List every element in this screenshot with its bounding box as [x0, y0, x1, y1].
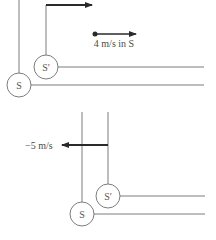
bottom-panel: S S′ −5 m/s: [25, 112, 205, 226]
top-panel: S S′ 4 m/s in S: [7, 0, 204, 97]
top-sprime-label: S′: [42, 62, 50, 73]
bottom-velocity-label: −5 m/s: [25, 140, 53, 151]
relative-velocity-diagram: S S′ 4 m/s in S S S′ −5 m/s: [0, 0, 216, 240]
bottom-s-label: S: [79, 209, 85, 220]
object-velocity-label: 4 m/s in S: [94, 38, 134, 49]
bottom-sprime-label: S′: [104, 191, 112, 202]
top-s-label: S: [16, 80, 22, 91]
